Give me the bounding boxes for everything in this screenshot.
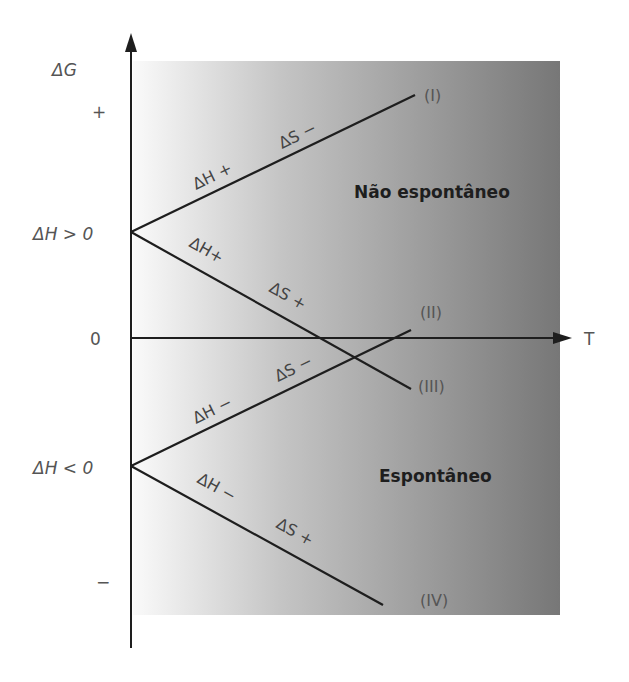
- region-label-nonspontaneous: Não espontâneo: [354, 182, 510, 202]
- y-tick-zero: 0: [90, 329, 101, 349]
- region-label-spontaneous: Espontâneo: [379, 466, 492, 486]
- y-tick-plus: +: [92, 102, 106, 122]
- line-IV-id: (IV): [420, 591, 448, 610]
- x-axis-label: T: [583, 329, 595, 349]
- y-tick-minus: −: [96, 572, 110, 592]
- line-II-id: (II): [420, 303, 442, 322]
- y-tick-dh-positive: ΔH > 0: [31, 224, 93, 244]
- gibbs-diagram: ΔG = ΔH − TΔS ΔG + ΔH > 0 0 ΔH < 0 − T N…: [0, 0, 629, 682]
- line-I-id: (I): [424, 86, 441, 105]
- top-equation: ΔG = ΔH − TΔS: [80, 0, 235, 1]
- y-axis-arrow-icon: [125, 33, 137, 52]
- line-III-id: (III): [418, 377, 445, 396]
- x-axis-arrow-icon: [553, 332, 572, 344]
- y-axis-label: ΔG: [50, 60, 77, 80]
- y-tick-dh-negative: ΔH < 0: [31, 458, 93, 478]
